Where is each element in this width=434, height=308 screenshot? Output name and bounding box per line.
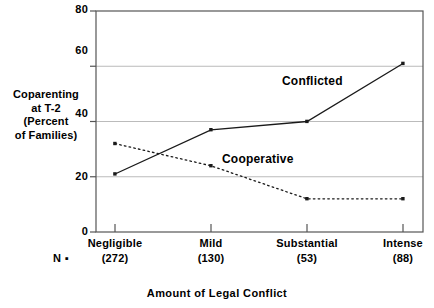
data-point-cooperative-mild (209, 164, 212, 167)
x-category-n-intense: (88) (353, 252, 434, 264)
data-point-conflicted-negligible (113, 172, 116, 175)
x-category-label-substantial: Substantial (257, 237, 357, 249)
data-point-cooperative-intense (401, 197, 404, 200)
x-category-label-intense: Intense (353, 237, 434, 249)
series-label-conflicted: Conflicted (282, 74, 343, 88)
data-point-conflicted-substantial (305, 120, 308, 123)
data-point-conflicted-mild (209, 128, 212, 131)
data-point-cooperative-substantial (305, 197, 308, 200)
data-point-conflicted-intense (401, 62, 404, 65)
x-category-n-negligible: (272) (65, 252, 165, 264)
series-label-cooperative: Cooperative (222, 152, 294, 166)
x-category-label-mild: Mild (161, 237, 261, 249)
chart-figure: Coparenting at T-2 (Percent of Families)… (0, 0, 434, 308)
x-category-n-substantial: (53) (257, 252, 357, 264)
data-point-cooperative-negligible (113, 142, 116, 145)
x-category-label-negligible: Negligible (65, 237, 165, 249)
x-category-n-mild: (130) (161, 252, 261, 264)
x-axis-title: Amount of Legal Conflict (0, 287, 434, 299)
